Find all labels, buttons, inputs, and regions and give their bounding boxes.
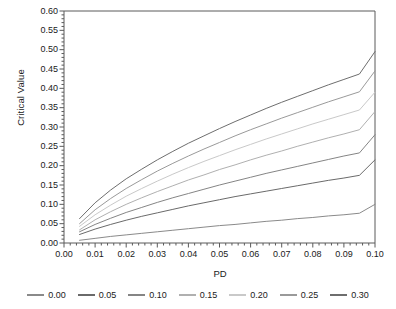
- legend-item-label: 0.00: [48, 290, 66, 300]
- plot-area: [0, 0, 396, 309]
- legend-item[interactable]: 0.00: [27, 290, 66, 300]
- chart-legend: 0.000.050.100.150.200.250.30: [0, 287, 396, 303]
- series-line-0-25: [80, 71, 375, 224]
- legend-item-label: 0.30: [351, 290, 369, 300]
- legend-item-label: 0.05: [99, 290, 117, 300]
- legend-item[interactable]: 0.25: [280, 290, 319, 300]
- series-line-0-10: [80, 135, 375, 232]
- chart-figure: Critical Value 0.000.050.100.150.200.250…: [0, 0, 396, 309]
- legend-line-icon: [179, 294, 196, 295]
- series-line-0-00: [80, 204, 375, 240]
- legend-item-label: 0.25: [301, 290, 319, 300]
- legend-item-label: 0.15: [200, 290, 218, 300]
- legend-line-icon: [229, 294, 246, 295]
- legend-item[interactable]: 0.15: [179, 290, 218, 300]
- legend-item[interactable]: 0.10: [128, 290, 167, 300]
- legend-line-icon: [128, 294, 145, 295]
- legend-item[interactable]: 0.30: [330, 290, 369, 300]
- legend-line-icon: [330, 294, 347, 295]
- legend-item[interactable]: 0.20: [229, 290, 268, 300]
- legend-line-icon: [78, 294, 95, 295]
- legend-line-icon: [27, 294, 44, 295]
- legend-item-label: 0.20: [250, 290, 268, 300]
- legend-item[interactable]: 0.05: [78, 290, 117, 300]
- legend-item-label: 0.10: [149, 290, 167, 300]
- legend-line-icon: [280, 294, 297, 295]
- series-line-0-30: [80, 52, 375, 219]
- series-line-0-15: [80, 112, 375, 230]
